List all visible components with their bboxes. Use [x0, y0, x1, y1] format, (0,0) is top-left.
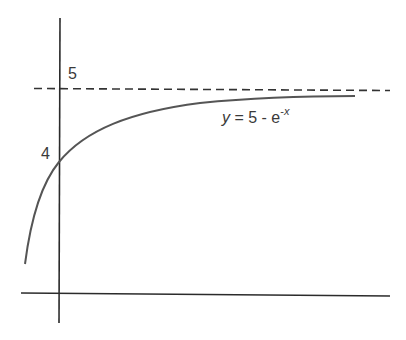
- tick-label-five: 5: [68, 66, 77, 82]
- equation-exponent: -x: [280, 105, 289, 117]
- function-equation: y = 5 - e-x: [222, 108, 289, 126]
- x-axis: [21, 293, 390, 296]
- y-axis: [59, 18, 60, 323]
- asymptote-line: [34, 89, 390, 91]
- tick-label-four: 4: [41, 146, 50, 162]
- equation-variable: y: [222, 109, 230, 126]
- function-graph: [0, 0, 406, 340]
- equation-body: = 5 - e: [230, 109, 280, 126]
- function-curve: [25, 96, 355, 264]
